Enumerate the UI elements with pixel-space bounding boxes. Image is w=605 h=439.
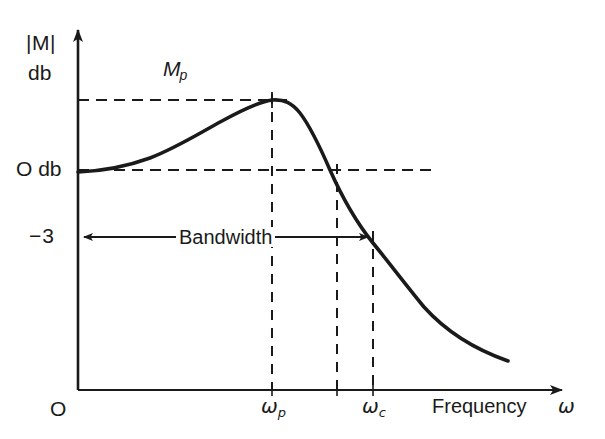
resonant-peak-subscript: p — [180, 67, 188, 83]
plot-canvas — [0, 0, 605, 439]
zero-db-label: O db — [16, 158, 62, 179]
omega-p-tick-label: ωp — [261, 396, 286, 416]
resonant-peak-label: Mp — [163, 58, 188, 79]
omega-c-tick-label: ωc — [362, 396, 386, 416]
y-axis-magnitude-text: |M| — [26, 31, 56, 54]
origin-label: O — [50, 398, 66, 419]
omega-p-subscript: p — [278, 405, 286, 420]
magnitude-response-curve — [78, 100, 508, 361]
minus-three-db-label: −3 — [29, 225, 55, 246]
omega-c-subscript: c — [379, 405, 386, 420]
x-axis-frequency-label: Frequency — [432, 396, 527, 416]
bandwidth-label: Bandwidth — [176, 227, 275, 247]
y-axis-magnitude-label: |M| — [26, 32, 56, 53]
omega-c-symbol: ω — [362, 394, 379, 418]
frequency-response-figure: |M| db O db −3 Mp Bandwidth ωp ωc Freque… — [0, 0, 605, 439]
resonant-peak-symbol: M — [163, 57, 181, 80]
y-axis-units-label: db — [28, 62, 51, 83]
omega-p-symbol: ω — [261, 394, 278, 418]
x-axis-omega-symbol: ω — [558, 396, 575, 416]
